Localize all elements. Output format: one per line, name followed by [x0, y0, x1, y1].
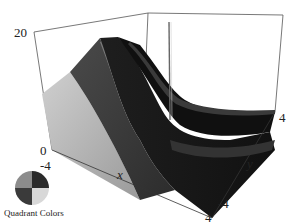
x-tick-min: -4 [40, 158, 51, 173]
y-tick-min: -4 [218, 196, 229, 211]
z-tick-min: 0 [40, 143, 47, 158]
surface [42, 22, 275, 218]
y-axis-label: y [245, 156, 253, 171]
x-tick-max: 4 [205, 210, 212, 224]
z-tick-max: 20 [14, 25, 27, 40]
legend-caption: Quadrant Colors [4, 208, 64, 218]
y-tick-max: 4 [279, 110, 286, 125]
x-axis-label: x [116, 167, 123, 182]
surface-plot: 20 0 -4 4 -4 4 x y [0, 0, 292, 224]
quadrant-legend-disc [15, 171, 49, 205]
